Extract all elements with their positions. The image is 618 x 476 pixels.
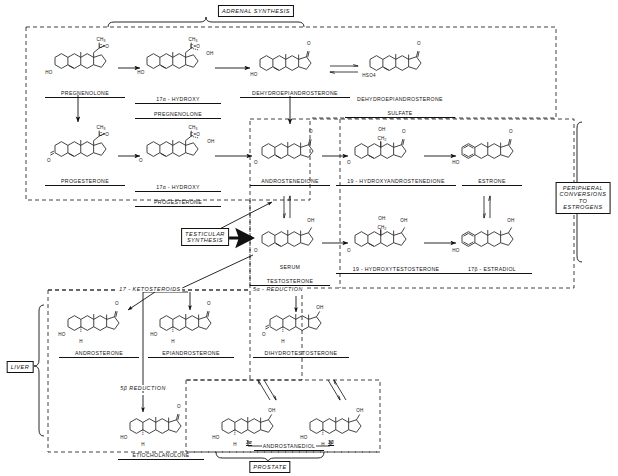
atom-ho: HO [452, 160, 459, 165]
region-box-adrenal-synthesis[interactable]: ADRENAL SYNTHESIS [218, 5, 294, 17]
atom-h: H [171, 339, 175, 344]
compound-label-19-hydroxytestosterone: 19 - HYDROXYTESTOSTERONE [336, 266, 456, 274]
atom-o: O [262, 332, 266, 337]
atom-oh: OH [507, 218, 514, 223]
atom-o: O [309, 129, 313, 134]
atom-o: O [139, 158, 143, 163]
compound-label-dhea: DEHYDROEPIANDROSTERONE [240, 90, 350, 98]
atom-oh: OH [268, 408, 275, 413]
atom-h: H [141, 442, 145, 447]
compound-label-etiocholanolone: ETIOCHOLANOLONE [118, 452, 204, 460]
compound-label-estrone: ESTRONE [462, 178, 522, 186]
atom-co: C=O [190, 44, 200, 49]
atom-o: O [307, 41, 311, 46]
compound-label-androstanediol: ANDROSTANEDIOL [254, 443, 324, 451]
atom-ho: HO [150, 332, 157, 337]
compound-label-line2: TESTOSTERONE [250, 278, 330, 286]
atom-oh: OH [378, 216, 385, 221]
atom-co: C=O [99, 44, 109, 49]
compound-label-line1: 17α - HYDROXY [135, 96, 221, 104]
atom-o: O [402, 129, 406, 134]
atom-ho: HO [212, 435, 219, 440]
atom-h: H [281, 339, 285, 344]
compound-label-line1: 17α - HYDROXY [135, 184, 221, 192]
atom-ch2: CH2 [377, 225, 386, 231]
atom-o: O [177, 404, 181, 409]
compound-label-19-hydroxyandrostenedione: 19 - HYDROXYANDROSTENEDIONE [336, 178, 456, 186]
compound-label-dhea-sulfate: DEHYDROEPIANDROSTERONE SULFATE [345, 90, 455, 124]
atom-oh: OH [307, 218, 314, 223]
compound-label-epiandrosterone: EPIANDROSTERONE [148, 350, 234, 358]
compound-label-dihydrotestosterone: DIHYDROTESTOSTERONE [253, 350, 349, 358]
atom-ho: HO [45, 70, 52, 75]
atom-ho: HO [58, 332, 65, 337]
pathway-label-17-ketosteroids: 17 - KETOSTEROIDS [117, 286, 182, 292]
region-box-testicular-synthesis[interactable]: TESTICULAR SYNTHESIS [181, 228, 229, 246]
compound-label-androstenedione: ANDROSTENEDIONE [250, 178, 330, 186]
compound-label-17b-estradiol: 17β - ESTRADIOL [452, 266, 532, 274]
compound-label-line2: SULFATE [345, 110, 455, 118]
compound-label-17a-hydroxypregnenolone: 17α - HYDROXY PREGNENOLONE [135, 90, 221, 125]
region-box-liver[interactable]: LIVER [7, 361, 34, 373]
atom-o: O [509, 129, 513, 134]
atom-o: O [417, 41, 421, 46]
atom-o: O [207, 301, 211, 306]
androstanediol-3alpha-label: 3α [246, 440, 252, 446]
atom-oh: OH [400, 218, 407, 223]
atom-ho: HO [300, 435, 307, 440]
compound-label-line1: DEHYDROEPIANDROSTERONE [345, 96, 455, 103]
atom-o: O [115, 301, 119, 306]
steroid-pathway-diagram: HO HO HO HSO4 CH3 C=O CH3 C=O OH O O O O… [0, 0, 618, 476]
atom-ch3: CH3 [96, 37, 105, 43]
atom-ho: HO [120, 435, 127, 440]
atom-h: H [233, 442, 237, 447]
atom-oh: OH [316, 305, 323, 310]
compound-label-pregnenolone: PREGNENOLONE [45, 90, 125, 98]
atom-o: O [347, 160, 351, 165]
atom-oh: OH [356, 408, 363, 413]
atom-o: O [47, 158, 51, 163]
atom-co: C=O [190, 132, 200, 137]
compound-label-progesterone: PROGESTERONE [45, 178, 125, 186]
pathway-label-5beta-reduction: 5β REDUCTION [118, 385, 168, 391]
compound-label-17a-hydroxyprogesterone: 17α - HYDROXY PROGESTERONE [135, 178, 221, 213]
compound-label-line2: PREGNENOLONE [135, 111, 221, 119]
atom-o: O [347, 248, 351, 253]
atom-o: O [254, 160, 258, 165]
atom-hso4: HSO4 [362, 73, 375, 78]
atom-ho: HO [250, 72, 257, 77]
atom-ch3: CH3 [188, 125, 197, 131]
compound-label-androsterone: ANDROSTERONE [59, 350, 139, 358]
region-box-prostate[interactable]: PROSTATE [249, 461, 290, 473]
atom-oh: OH [207, 139, 214, 144]
atom-ch2: CH2 [377, 136, 386, 142]
atom-ho: HO [452, 248, 459, 253]
atom-oh: OH [206, 51, 213, 56]
androstanediol-3beta-label: 3β [328, 440, 334, 446]
atom-ho: HO [137, 70, 144, 75]
pathway-artwork [0, 0, 618, 476]
region-box-peripheral-conversions[interactable]: PERIPHERAL CONVERSIONS TO ESTROGENS [556, 182, 611, 214]
atom-ch3: CH3 [96, 125, 105, 131]
atom-oh: OH [378, 127, 385, 132]
compound-label-line2: PROGESTERONE [135, 199, 221, 207]
atom-h: H [79, 339, 83, 344]
atom-ch3: CH3 [188, 37, 197, 43]
compound-label-line1: SERUM [250, 264, 330, 271]
atom-co: C=O [99, 132, 109, 137]
atom-o: O [254, 248, 258, 253]
pathway-label-5alpha-reduction: 5α - REDUCTION [251, 286, 305, 292]
